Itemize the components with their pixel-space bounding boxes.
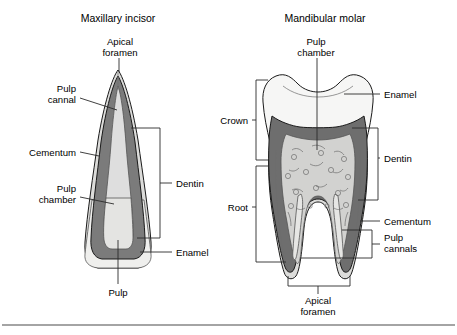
label-crown: Crown bbox=[220, 115, 248, 126]
panel-title-mandibular-molar: Mandibular molar bbox=[284, 12, 366, 24]
figure-canvas: Maxillary incisor Mandibular molar bbox=[0, 0, 457, 335]
label-pulp-cannals-line1: Pulp bbox=[384, 232, 403, 243]
label-pulp-cannal-line1: Pulp bbox=[57, 83, 76, 94]
label-dentin-incisor: Dentin bbox=[176, 178, 204, 189]
label-pulp-cannal-line2: cannal bbox=[48, 94, 76, 105]
label-root: Root bbox=[228, 202, 249, 213]
label-molar-apical-foramen-line2: foramen bbox=[300, 306, 335, 317]
label-apical-foramen-line1: Apical bbox=[107, 36, 133, 47]
label-molar-pulp-chamber-line2: chamber bbox=[297, 47, 335, 58]
label-molar-apical-foramen-line1: Apical bbox=[305, 295, 331, 306]
label-pulp-chamber-line2: chamber bbox=[39, 194, 77, 205]
label-pulp-chamber-line1: Pulp bbox=[57, 183, 76, 194]
label-enamel-incisor: Enamel bbox=[176, 247, 209, 258]
label-molar-enamel: Enamel bbox=[384, 89, 417, 100]
figure-background bbox=[0, 0, 457, 335]
label-molar-dentin: Dentin bbox=[384, 153, 412, 164]
label-molar-pulp-chamber-line1: Pulp bbox=[306, 36, 325, 47]
label-cementum-incisor: Cementum bbox=[29, 147, 76, 158]
label-pulp-incisor: Pulp bbox=[108, 287, 127, 298]
dental-anatomy-figure: Maxillary incisor Mandibular molar bbox=[0, 0, 457, 335]
label-apical-foramen-line2: foramen bbox=[102, 47, 137, 58]
panel-title-maxillary-incisor: Maxillary incisor bbox=[81, 12, 156, 24]
label-molar-cementum: Cementum bbox=[384, 216, 431, 227]
label-pulp-cannals-line2: cannals bbox=[384, 243, 417, 254]
